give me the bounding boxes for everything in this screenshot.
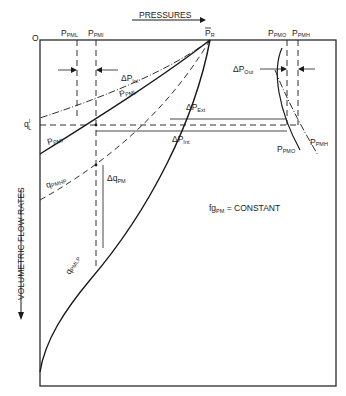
p-pmo-curve: [277, 48, 300, 150]
curve-label-p-pmo: PPMO: [277, 144, 296, 154]
dp-ext-label: ΔPExt: [186, 102, 206, 113]
dp-out-label: ΔPOut: [233, 64, 254, 75]
flow-arrowhead-icon: [18, 312, 24, 320]
top-label-p-pmi: PPMI: [88, 28, 104, 38]
y-axis-label: VOLUMETRIC FLOW RATES: [16, 187, 26, 300]
constant-annotation: fgPM = CONSTANT: [209, 203, 280, 214]
curve-label-p-pml: PPML: [118, 85, 137, 99]
q-l-label: qIL: [24, 118, 31, 131]
top-label-p-pmh: PPMH: [292, 28, 310, 38]
dp-inl-label: ΔPInl: [121, 73, 138, 84]
dq-pm-label: ΔqPM: [107, 173, 126, 184]
dp-int-label: ΔPInt: [172, 134, 190, 145]
pressure-flow-diagram: PRESSURES O PPML PPMI PR PPMO PPMH ΔPInl…: [0, 0, 346, 396]
curve-label-q-pmlp: qPMLP: [63, 254, 82, 276]
curve-label-p-pmi: PPMI: [46, 133, 64, 147]
dp-out-arrow-icon: [298, 66, 304, 72]
curve-label-q-pmhp: qPMHP: [45, 174, 68, 190]
x-axis-label: PRESSURES: [139, 10, 192, 20]
top-label-p-pmo: PPMO: [268, 28, 287, 38]
top-label-p-pml: PPML: [61, 28, 78, 38]
curve-label-p-pmh: PPMH: [310, 137, 328, 147]
pressures-arrowhead-icon: [200, 17, 206, 23]
q-l-point: [95, 124, 98, 127]
q-pmhp-curve: [40, 40, 210, 200]
plot-frame: [40, 40, 336, 386]
top-label-p-r: PR: [205, 28, 215, 38]
dp-inl-arrow-icon: [96, 67, 102, 73]
dp-inl-arrow-icon: [71, 67, 77, 73]
dp-out-arrow-icon: [281, 66, 287, 72]
q-pmhp-point: [95, 164, 98, 167]
origin-label: O: [32, 33, 39, 43]
q-pmlp-curve: [40, 40, 210, 372]
